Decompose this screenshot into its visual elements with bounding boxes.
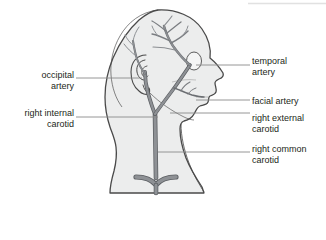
label-right-internal-carotid: right internal carotid xyxy=(2,108,74,129)
right-common-carotid-vessel-fill xyxy=(155,114,156,178)
label-right-external-carotid: right external carotid xyxy=(252,113,324,134)
label-facial-artery: facial artery xyxy=(252,96,324,107)
label-occipital-artery: occipital artery xyxy=(2,70,74,91)
label-temporal-artery: temporal artery xyxy=(252,56,324,77)
label-right-common-carotid: right common carotid xyxy=(252,144,324,165)
